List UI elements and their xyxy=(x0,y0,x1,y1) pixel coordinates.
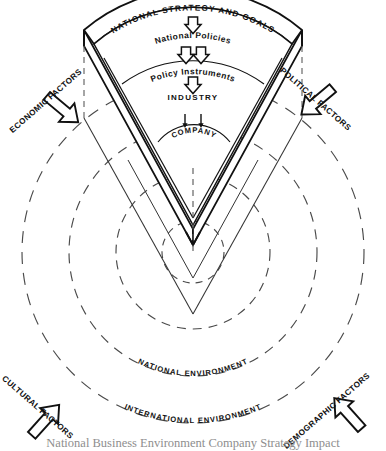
figure-caption: National Business Environment Company St… xyxy=(0,436,386,451)
ring-label-national-environment: NATIONAL ENVIRONMENT xyxy=(137,357,250,378)
ring-label-international-environment: INTERNATIONAL ENVIRONMENT xyxy=(123,402,263,425)
environment-wedge-diagram: NATIONAL STRATEGY AND GOALS National Pol… xyxy=(0,0,386,451)
strategy-wedge: NATIONAL STRATEGY AND GOALS National Pol… xyxy=(84,0,302,314)
level-label-industry: INDUSTRY xyxy=(168,93,219,102)
